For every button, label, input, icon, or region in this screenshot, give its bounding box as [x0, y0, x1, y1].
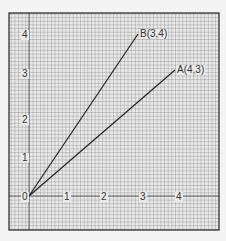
y-tick-2: 2	[21, 115, 29, 125]
point-b-label: B(3,4)	[139, 29, 168, 39]
y-tick-4: 4	[21, 30, 29, 40]
y-tick-1: 1	[21, 153, 29, 163]
fine-grid	[9, 13, 219, 230]
x-tick-3: 3	[139, 192, 147, 202]
x-tick-2: 2	[100, 192, 108, 202]
x-tick-4: 4	[175, 192, 183, 202]
point-a-label: A(4,3)	[176, 65, 205, 75]
y-tick-3: 3	[21, 69, 29, 79]
graph-paper-plot	[0, 0, 226, 241]
x-tick-1: 1	[63, 192, 71, 202]
origin-label: 0	[21, 192, 29, 202]
